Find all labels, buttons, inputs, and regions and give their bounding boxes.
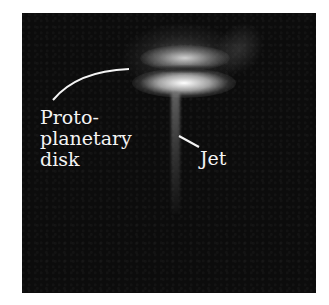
protoplanetary-disk-photo: Proto- planetary disk Jet (22, 13, 316, 293)
jet-leader-line (179, 136, 199, 147)
disk-label-line-3: disk (40, 149, 132, 170)
disk-leader-line (53, 69, 129, 100)
disk-label-line-1: Proto- (40, 107, 132, 128)
disk-label-line-2: planetary (40, 128, 132, 149)
jet-label: Jet (200, 148, 227, 169)
protoplanetary-disk-label: Proto- planetary disk (40, 107, 132, 170)
